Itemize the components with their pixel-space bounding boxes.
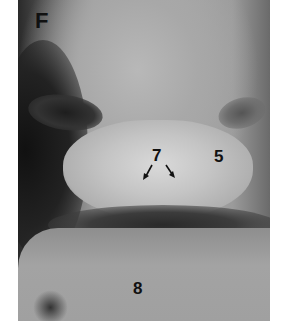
limb-shadow bbox=[33, 290, 68, 321]
arrow-icon-pair bbox=[140, 162, 180, 184]
label-8: 8 bbox=[133, 280, 142, 297]
embryo-photo bbox=[18, 0, 270, 321]
label-5: 5 bbox=[214, 148, 223, 165]
panel-label: F bbox=[35, 10, 48, 32]
